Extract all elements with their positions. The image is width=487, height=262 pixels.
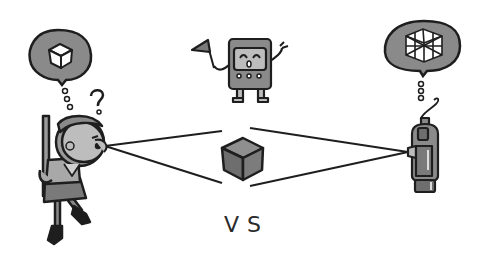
mesh-cube-icon — [406, 29, 442, 62]
versus-label: VS — [224, 212, 269, 237]
person-thought-bubble — [30, 30, 91, 110]
camera-thought-bubble — [385, 21, 460, 101]
center-cube-icon — [222, 138, 263, 180]
robot-mascot — [192, 39, 288, 102]
illustration-canvas: VS — [0, 0, 487, 262]
question-mark-icon — [91, 90, 103, 114]
person-figure — [40, 116, 107, 244]
simple-cube-icon — [49, 44, 72, 68]
camera-device — [408, 98, 438, 192]
